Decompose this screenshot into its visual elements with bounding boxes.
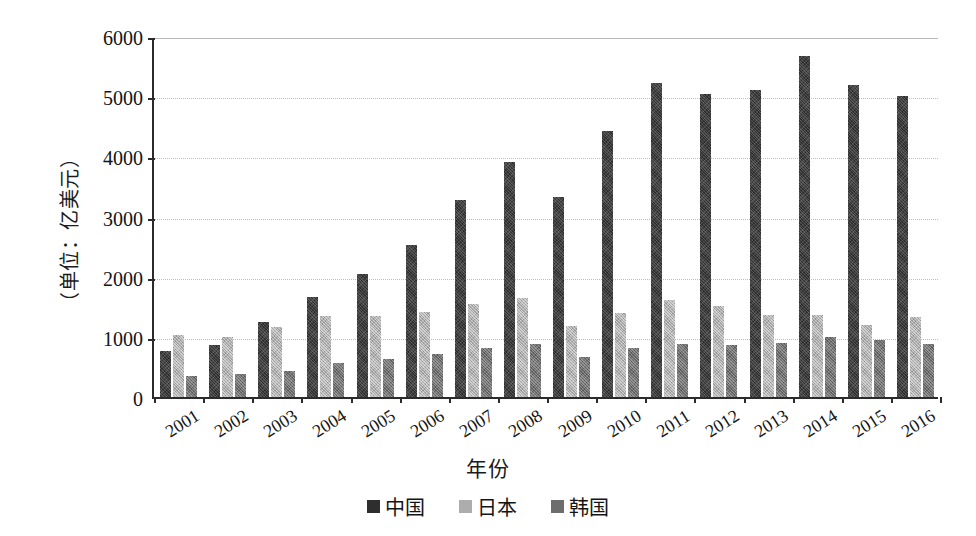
x-tick-label-2007: 2007	[456, 405, 498, 442]
bar-japan-2007	[468, 304, 479, 397]
bar-group	[799, 38, 836, 397]
bar-korea-2006	[432, 354, 443, 397]
x-axis-tick-labels: 2001200220032004200520062007200820092010…	[152, 399, 938, 459]
bar-group	[504, 38, 541, 397]
bar-japan-2016	[910, 317, 921, 397]
bar-group	[406, 38, 443, 397]
bar-groups	[154, 38, 938, 397]
bar-group	[455, 38, 492, 397]
y-tick-label-3000: 3000	[103, 207, 143, 230]
bar-group	[209, 38, 246, 397]
y-tick-label-1000: 1000	[103, 327, 143, 350]
bar-china-2011	[651, 83, 662, 397]
x-tick-label-2012: 2012	[702, 405, 744, 442]
x-tick-label-2016: 2016	[898, 405, 940, 442]
bar-japan-2006	[419, 312, 430, 397]
x-tick-label-2001: 2001	[161, 405, 203, 442]
bar-japan-2009	[566, 326, 577, 397]
y-tick-label-4000: 4000	[103, 147, 143, 170]
bar-japan-2014	[812, 315, 823, 397]
bar-group	[750, 38, 787, 397]
y-tick-label-6000: 6000	[103, 27, 143, 50]
bar-china-2008	[504, 162, 515, 397]
bar-korea-2004	[333, 363, 344, 397]
bar-japan-2001	[173, 335, 184, 397]
bar-china-2002	[209, 345, 220, 397]
bar-korea-2009	[579, 357, 590, 397]
x-tick-label-2014: 2014	[800, 405, 842, 442]
bar-china-2005	[357, 274, 368, 397]
bar-korea-2005	[383, 359, 394, 398]
bar-korea-2007	[481, 348, 492, 397]
bar-japan-2013	[763, 315, 774, 397]
bar-korea-2011	[677, 344, 688, 397]
bar-japan-2004	[320, 316, 331, 397]
y-axis-title: （单位：亿美元）	[54, 65, 83, 395]
bar-china-2006	[406, 245, 417, 397]
bar-group	[602, 38, 639, 397]
bar-group	[258, 38, 295, 397]
bar-japan-2012	[713, 306, 724, 397]
bar-china-2016	[897, 96, 908, 397]
x-tick-label-2004: 2004	[309, 405, 351, 442]
legend-label-china: 中国	[385, 492, 425, 521]
x-tick-label-2003: 2003	[260, 405, 302, 442]
bar-china-2009	[553, 197, 564, 397]
bar-china-2003	[258, 322, 269, 397]
x-tick-label-2009: 2009	[554, 405, 596, 442]
legend-label-korea: 韩国	[569, 492, 609, 521]
x-axis-title: 年份	[0, 452, 976, 482]
bar-group	[160, 38, 197, 397]
x-tick-label-2013: 2013	[751, 405, 793, 442]
legend-swatch-korea-icon	[551, 500, 564, 513]
bar-group	[897, 38, 934, 397]
y-tick-label-5000: 5000	[103, 87, 143, 110]
bar-korea-2001	[186, 376, 197, 397]
bar-china-2015	[848, 85, 859, 397]
bar-korea-2012	[726, 345, 737, 397]
bar-korea-2010	[628, 348, 639, 397]
x-tick-end	[940, 397, 942, 403]
bar-chart: （单位：亿美元） 0100020003000400050006000 20012…	[0, 0, 976, 536]
chart-legend: 中国日本韩国	[0, 492, 976, 521]
x-tick-label-2002: 2002	[210, 405, 252, 442]
bar-korea-2014	[825, 337, 836, 397]
x-tick-label-2010: 2010	[603, 405, 645, 442]
bar-group	[357, 38, 394, 397]
bar-china-2007	[455, 200, 466, 397]
legend-item-china[interactable]: 中国	[367, 492, 425, 521]
bar-china-2014	[799, 56, 810, 397]
bar-group	[307, 38, 344, 397]
bar-japan-2003	[271, 327, 282, 397]
bar-korea-2003	[284, 371, 295, 397]
legend-swatch-japan-icon	[459, 500, 472, 513]
bar-japan-2015	[861, 325, 872, 397]
bar-group	[848, 38, 885, 397]
bar-group	[651, 38, 688, 397]
bar-korea-2008	[530, 344, 541, 397]
bar-korea-2016	[923, 344, 934, 397]
bar-japan-2011	[664, 300, 675, 397]
bar-china-2001	[160, 351, 171, 397]
legend-swatch-china-icon	[367, 500, 380, 513]
x-tick-label-2015: 2015	[849, 405, 891, 442]
bar-japan-2008	[517, 298, 528, 397]
legend-item-korea[interactable]: 韩国	[551, 492, 609, 521]
bar-china-2012	[700, 94, 711, 397]
legend-label-japan: 日本	[477, 492, 517, 521]
bar-korea-2013	[776, 343, 787, 397]
bar-china-2004	[307, 297, 318, 397]
x-tick-label-2011: 2011	[653, 406, 694, 443]
y-tick-label-0: 0	[133, 388, 143, 411]
bar-japan-2010	[615, 313, 626, 397]
bar-japan-2002	[222, 337, 233, 397]
plot-area: 0100020003000400050006000	[152, 38, 938, 399]
bar-group	[553, 38, 590, 397]
bar-korea-2002	[235, 374, 246, 397]
x-tick-label-2008: 2008	[505, 405, 547, 442]
legend-item-japan[interactable]: 日本	[459, 492, 517, 521]
bar-group	[700, 38, 737, 397]
bar-korea-2015	[874, 340, 885, 397]
bar-japan-2005	[370, 316, 381, 397]
x-tick-label-2005: 2005	[358, 405, 400, 442]
